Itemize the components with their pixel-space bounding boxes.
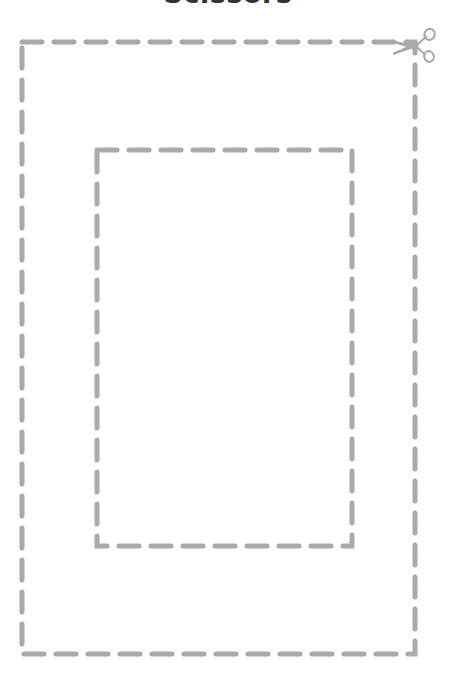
inner-cut-rectangle: [97, 150, 352, 546]
cut-lines-group: [0, 0, 456, 685]
scissors-icon: [391, 26, 439, 64]
worksheet-canvas: Scissors: [0, 0, 456, 685]
scissors-icon-glyph: [391, 26, 439, 64]
outer-cut-rectangle: [22, 42, 415, 654]
